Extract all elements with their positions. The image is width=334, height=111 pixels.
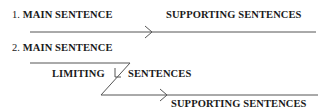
pattern1-main-label: MAIN SENTENCE <box>23 9 113 20</box>
pattern1-main: 1. MAIN SENTENCE <box>12 9 113 20</box>
pattern2-limiting-label: LIMITING <box>52 68 105 79</box>
pattern2-sentences-label: SENTENCES <box>128 68 191 79</box>
pattern2-main: 2. MAIN SENTENCE <box>12 42 113 53</box>
pattern1-supporting-label: SUPPORTING SENTENCES <box>166 9 302 20</box>
pattern2-diagonal <box>101 63 130 95</box>
pattern2-supporting-label: SUPPORTING SENTENCES <box>171 98 307 109</box>
pattern1-number: 1. <box>12 9 20 20</box>
pattern2-number: 2. <box>12 42 20 53</box>
pattern2-main-label: MAIN SENTENCE <box>23 42 113 53</box>
